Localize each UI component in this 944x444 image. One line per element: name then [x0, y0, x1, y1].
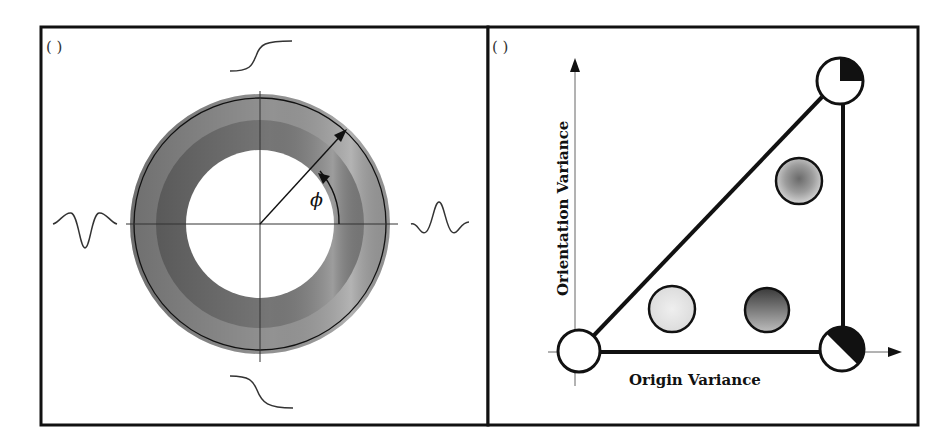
y-axis-label: Orientation Variance — [554, 121, 572, 296]
panel-a: ( ) ϕ — [41, 27, 488, 425]
node-bottom-right — [820, 327, 864, 371]
node-radial-blur — [776, 158, 822, 204]
figure-canvas: ( ) ϕ ( ) — [0, 0, 944, 444]
panel-b-label: ( ) — [492, 38, 508, 56]
node-top-right — [817, 58, 863, 104]
node-dark-gradient — [745, 288, 789, 332]
x-axis-label: Origin Variance — [629, 371, 761, 389]
panel-b: ( ) Origin Variance Orientation Variance — [488, 27, 918, 425]
node-origin — [558, 330, 600, 372]
node-light-stipple — [649, 286, 695, 332]
panel-a-label: ( ) — [46, 38, 62, 56]
phi-symbol: ϕ — [310, 188, 323, 210]
